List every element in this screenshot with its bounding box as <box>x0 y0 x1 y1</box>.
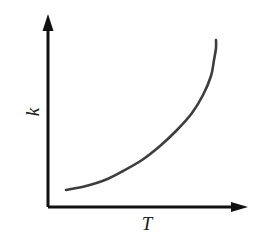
y-axis-label: k <box>23 108 42 116</box>
curve-k-of-T <box>66 40 216 190</box>
y-axis-arrowhead-icon <box>43 14 54 31</box>
figure-container: k T <box>0 0 264 238</box>
x-axis-label: T <box>142 214 153 233</box>
x-axis-arrowhead-icon <box>231 202 248 212</box>
plot-canvas <box>0 0 264 238</box>
